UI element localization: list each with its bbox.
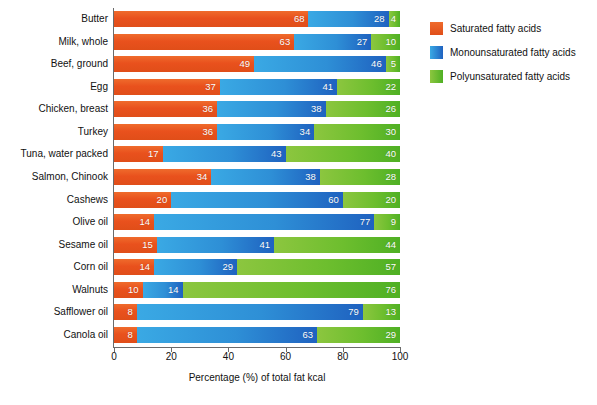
category-label: Tuna, water packed [0, 146, 108, 162]
bar-segment-mono: 41 [220, 79, 337, 95]
bar-value-label: 15 [142, 240, 157, 250]
bar-segment-sat: 20 [114, 192, 171, 208]
bar-row: 363826 [114, 101, 400, 117]
bar-row: 206020 [114, 192, 400, 208]
category-label: Walnuts [0, 282, 108, 298]
bar-value-label: 63 [302, 330, 317, 340]
bar-segment-mono: 27 [294, 34, 371, 50]
bar-segment-mono: 77 [154, 214, 374, 230]
category-label: Butter [0, 11, 108, 27]
bar-value-label: 9 [391, 217, 400, 227]
bar-segment-sat: 14 [114, 259, 154, 275]
category-label: Canola oil [0, 327, 108, 343]
bar-segment-mono: 63 [137, 327, 317, 343]
bar-value-label: 34 [197, 172, 212, 182]
bar-row: 49465 [114, 56, 400, 72]
bar-segment-poly: 57 [237, 259, 400, 275]
bar-segment-poly: 29 [317, 327, 400, 343]
bar-segment-poly: 44 [274, 237, 400, 253]
bar-value-label: 40 [385, 149, 400, 159]
bar-segment-mono: 28 [308, 11, 388, 27]
bar-value-label: 13 [385, 307, 400, 317]
category-label: Sesame oil [0, 237, 108, 253]
category-label-group: ButterMilk, wholeBeef, groundEggChicken,… [0, 8, 108, 346]
bar-value-label: 60 [328, 195, 343, 205]
bar-value-label: 38 [311, 104, 326, 114]
bar-value-label: 14 [139, 262, 154, 272]
bar-segment-mono: 43 [163, 146, 286, 162]
bar-segment-poly: 76 [183, 282, 400, 298]
bar-segment-poly: 5 [386, 56, 400, 72]
bar-segment-poly: 9 [374, 214, 400, 230]
bar-row: 86329 [114, 327, 400, 343]
category-label: Cashews [0, 192, 108, 208]
bar-row: 68284 [114, 11, 400, 27]
bar-value-label: 14 [139, 217, 154, 227]
x-axis-tick-label: 100 [392, 351, 409, 362]
legend-label: Polyunsaturated fatty acids [450, 70, 570, 83]
category-label: Turkey [0, 124, 108, 140]
x-axis-tick-label: 80 [337, 351, 348, 362]
bar-segment-mono: 38 [217, 101, 326, 117]
bar-value-label: 28 [385, 172, 400, 182]
bar-segment-mono: 38 [211, 169, 320, 185]
bar-segment-sat: 10 [114, 282, 143, 298]
bar-value-label: 28 [374, 14, 389, 24]
category-label: Salmon, Chinook [0, 169, 108, 185]
bar-segment-mono: 41 [157, 237, 274, 253]
bar-value-label: 4 [391, 14, 400, 24]
x-axis-title: Percentage (%) of total fat kcal [114, 372, 400, 383]
bar-segment-mono: 14 [143, 282, 183, 298]
bar-value-label: 41 [322, 82, 337, 92]
bar-value-label: 44 [385, 240, 400, 250]
legend-item[interactable]: Monounsaturated fatty acids [430, 46, 576, 59]
bar-segment-sat: 36 [114, 101, 217, 117]
legend-label: Monounsaturated fatty acids [450, 46, 576, 59]
bar-value-label: 79 [348, 307, 363, 317]
bar-segment-sat: 36 [114, 124, 217, 140]
legend-swatch-sat-icon [430, 22, 443, 35]
bar-value-label: 29 [222, 262, 237, 272]
bar-row: 14779 [114, 214, 400, 230]
bar-segment-sat: 8 [114, 327, 137, 343]
category-label: Chicken, breast [0, 101, 108, 117]
bar-row: 363430 [114, 124, 400, 140]
bar-value-label: 77 [360, 217, 375, 227]
legend-label: Saturated fatty acids [450, 22, 541, 35]
plot-area: 6828463271049465374122363826363430174340… [114, 8, 400, 346]
bar-value-label: 17 [148, 149, 163, 159]
legend-swatch-mono-icon [430, 46, 443, 59]
category-label: Beef, ground [0, 56, 108, 72]
bar-value-label: 27 [357, 37, 372, 47]
bar-value-label: 8 [128, 330, 137, 340]
bar-segment-mono: 46 [254, 56, 386, 72]
bar-row: 374122 [114, 79, 400, 95]
category-label: Olive oil [0, 214, 108, 230]
bar-row: 87913 [114, 304, 400, 320]
legend-swatch-poly-icon [430, 70, 443, 83]
bar-segment-poly: 22 [337, 79, 400, 95]
bar-value-label: 63 [280, 37, 295, 47]
legend-item[interactable]: Polyunsaturated fatty acids [430, 70, 576, 83]
bar-segment-poly: 26 [326, 101, 400, 117]
bar-segment-sat: 15 [114, 237, 157, 253]
bar-value-label: 36 [202, 127, 217, 137]
bar-value-label: 46 [371, 59, 386, 69]
bar-value-label: 30 [385, 127, 400, 137]
category-label: Egg [0, 79, 108, 95]
bar-segment-poly: 30 [314, 124, 400, 140]
bar-value-label: 37 [205, 82, 220, 92]
bar-value-label: 34 [300, 127, 315, 137]
bar-segment-poly: 4 [389, 11, 400, 27]
bar-value-label: 26 [385, 104, 400, 114]
bar-row: 101476 [114, 282, 400, 298]
bar-row: 343828 [114, 169, 400, 185]
bar-segment-sat: 49 [114, 56, 254, 72]
bar-value-label: 49 [240, 59, 255, 69]
legend-item[interactable]: Saturated fatty acids [430, 22, 576, 35]
x-axis-tick-label: 0 [111, 351, 117, 362]
category-label: Safflower oil [0, 304, 108, 320]
bar-segment-mono: 79 [137, 304, 363, 320]
bar-value-label: 68 [294, 14, 309, 24]
bar-value-label: 8 [128, 307, 137, 317]
